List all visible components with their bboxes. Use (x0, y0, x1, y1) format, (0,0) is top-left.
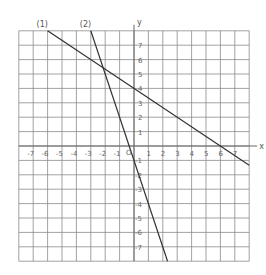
y-tick-label: -1 (135, 157, 142, 165)
y-tick-label: -5 (135, 215, 142, 223)
x-tick-label: -6 (42, 150, 50, 158)
x-tick-label: 6 (218, 150, 223, 158)
y-tick-label: 6 (138, 57, 143, 65)
y-tick-label: 3 (138, 100, 142, 108)
y-axis-label: y (137, 18, 142, 27)
x-tick-label: 5 (204, 150, 208, 158)
y-tick-label: 1 (138, 129, 142, 137)
line-label-1: (1) (37, 20, 48, 29)
origin-label: O (126, 149, 132, 157)
x-tick-label: 2 (161, 150, 165, 158)
y-tick-label: 2 (138, 114, 142, 122)
y-tick-label: -3 (135, 186, 142, 194)
y-tick-label: 7 (138, 42, 142, 50)
function-lines: (1)(2) (37, 20, 250, 261)
x-tick-label: -5 (56, 150, 63, 158)
x-tick-label: -7 (27, 150, 34, 158)
x-tick-label: -4 (70, 150, 78, 158)
y-tick-label: -6 (135, 229, 143, 237)
x-tick-label: 3 (175, 150, 179, 158)
x-tick-label: -3 (85, 150, 92, 158)
x-tick-label: -1 (114, 150, 121, 158)
y-tick-label: -4 (135, 201, 143, 209)
x-axis-label: x (259, 142, 264, 151)
line-label-2: (2) (80, 20, 91, 29)
x-tick-label: 1 (146, 150, 150, 158)
y-tick-label: 5 (138, 71, 142, 79)
x-tick-label: -2 (99, 150, 106, 158)
coordinate-plane: -7-6-5-4-3-2-112345677654321-1-2-3-4-5-6… (0, 0, 266, 275)
y-tick-label: -7 (135, 244, 142, 252)
x-tick-label: 4 (190, 150, 195, 158)
